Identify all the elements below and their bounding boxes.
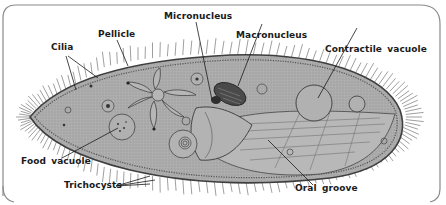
- label-oral-groove: Oral groove: [295, 184, 358, 193]
- label-micronucleus: Micronucleus: [164, 12, 232, 21]
- label-macronucleus: Macronucleus: [236, 31, 307, 40]
- diagram-canvas: [0, 0, 446, 205]
- paramecium-diagram: Cilia Pellicle Micronucleus Macronucleus…: [0, 0, 446, 205]
- label-cilia: Cilia: [51, 43, 73, 52]
- label-food-vacuole: Food vacuole: [21, 157, 91, 166]
- micronucleus-shape: [211, 96, 221, 104]
- contractile-vacuole-shape: [296, 85, 332, 121]
- label-pellicle: Pellicle: [98, 30, 135, 39]
- food-vacuole-shape: [109, 114, 135, 140]
- label-contractile-vacuole: Contractile vacuole: [325, 45, 427, 54]
- label-trichocysts: Trichocysts: [64, 181, 122, 190]
